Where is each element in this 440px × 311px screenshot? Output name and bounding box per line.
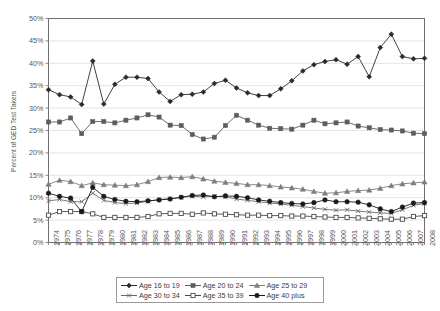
- data-point: [245, 90, 250, 95]
- y-tick-label: 0%: [33, 238, 43, 247]
- data-point: [411, 56, 416, 61]
- data-point: [190, 193, 195, 198]
- data-point: [69, 116, 73, 120]
- x-tick-label: 1978: [96, 230, 105, 246]
- y-tick-label: 40%: [29, 59, 43, 68]
- x-tick-label: 1991: [240, 230, 249, 246]
- data-point: [301, 123, 305, 127]
- data-point: [223, 194, 228, 199]
- legend-marker-icon: [184, 281, 202, 290]
- legend-label: Age 40 plus: [267, 291, 305, 300]
- x-tick-label: 1996: [295, 230, 304, 246]
- legend-item[interactable]: Age 20 to 24: [184, 281, 244, 290]
- legend-label: Age 20 to 24: [203, 281, 244, 290]
- x-tick-label: 1999: [328, 230, 337, 246]
- legend-item[interactable]: Age 40 plus: [248, 291, 305, 300]
- data-point: [422, 214, 426, 218]
- data-point: [191, 283, 195, 287]
- data-point: [278, 200, 283, 205]
- data-point: [312, 118, 316, 122]
- data-point: [57, 120, 61, 124]
- data-point: [400, 205, 405, 210]
- data-point: [157, 212, 161, 216]
- x-tick-label: 1992: [251, 230, 260, 246]
- data-point: [223, 212, 227, 216]
- legend-row: Age 30 to 34Age 35 to 39Age 40 plus: [120, 290, 320, 300]
- legend-marker-icon: [248, 281, 266, 290]
- x-tick-label: 1979: [107, 230, 116, 246]
- data-point: [367, 216, 371, 220]
- x-tick-label: 2008: [428, 230, 437, 246]
- x-tick-label: 1983: [151, 230, 160, 246]
- data-point: [378, 207, 383, 212]
- data-point: [334, 215, 338, 219]
- data-point: [80, 132, 84, 136]
- data-point: [101, 102, 106, 107]
- data-point: [356, 216, 360, 220]
- legend-marker-icon: [120, 281, 138, 290]
- x-tick-label: 2003: [372, 230, 381, 246]
- data-point: [69, 209, 73, 213]
- x-tick-label: 1989: [217, 230, 226, 246]
- data-point: [378, 128, 382, 132]
- data-point: [345, 215, 349, 219]
- legend-item[interactable]: Age 30 to 34: [120, 291, 180, 300]
- data-point: [101, 194, 106, 199]
- x-tick-label: 1995: [284, 230, 293, 246]
- legend-label: Age 30 to 34: [139, 291, 180, 300]
- x-tick-label: 1976: [74, 230, 83, 246]
- data-point: [256, 198, 261, 203]
- data-point: [411, 131, 415, 135]
- y-tick-label: 25%: [29, 126, 43, 135]
- data-point: [102, 119, 106, 123]
- data-point: [257, 213, 261, 217]
- data-point: [345, 199, 350, 204]
- x-tick-label: 1985: [173, 230, 182, 246]
- plot-canvas: [0, 0, 440, 311]
- data-point: [127, 283, 132, 288]
- data-point: [123, 75, 128, 80]
- legend-item[interactable]: Age 25 to 29: [248, 281, 308, 290]
- data-point: [389, 209, 394, 214]
- legend-item[interactable]: Age 35 to 39: [184, 291, 244, 300]
- legend-item[interactable]: Age 16 to 19: [120, 281, 180, 290]
- data-point: [168, 197, 173, 202]
- data-point: [268, 214, 272, 218]
- data-point: [91, 212, 95, 216]
- data-point: [102, 215, 106, 219]
- data-point: [267, 93, 272, 98]
- data-point: [146, 214, 150, 218]
- legend-row: Age 16 to 19Age 20 to 24Age 25 to 29: [120, 280, 320, 290]
- data-point: [234, 194, 239, 199]
- data-point: [245, 213, 249, 217]
- data-point: [323, 198, 328, 203]
- x-tick-label: 2002: [361, 230, 370, 246]
- data-point: [422, 200, 427, 205]
- x-tick-label: 2007: [416, 230, 425, 246]
- data-point: [400, 129, 404, 133]
- x-tick-label: 1984: [162, 230, 171, 246]
- data-point: [400, 217, 404, 221]
- data-point: [135, 116, 139, 120]
- data-point: [422, 56, 427, 61]
- data-point: [134, 75, 139, 80]
- data-point: [223, 123, 227, 127]
- x-tick-label: 1993: [262, 230, 271, 246]
- data-point: [254, 293, 259, 298]
- x-tick-label: 1994: [273, 230, 282, 246]
- data-point: [323, 215, 327, 219]
- x-tick-label: 1988: [206, 230, 215, 246]
- data-point: [334, 121, 338, 125]
- x-tick-label: 1981: [129, 230, 138, 246]
- data-point: [201, 137, 205, 141]
- data-point: [113, 197, 118, 202]
- y-tick-label: 5%: [33, 216, 43, 225]
- data-point: [179, 211, 183, 215]
- series-line: [49, 34, 425, 104]
- data-point: [46, 87, 51, 92]
- data-point: [234, 213, 238, 217]
- data-point: [279, 214, 283, 218]
- y-tick-label: 35%: [29, 81, 43, 90]
- data-point: [179, 195, 184, 200]
- data-point: [135, 199, 140, 204]
